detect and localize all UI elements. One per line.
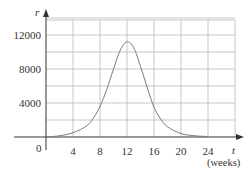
grid-lines: [46, 18, 235, 137]
x-tick-label: 8: [97, 145, 103, 157]
y-tick-label: 12000: [14, 29, 42, 41]
x-axis-arrow-icon: [236, 134, 244, 140]
tick-labels: 48121620244000800012000: [14, 29, 215, 157]
x-tick-label: 16: [149, 145, 161, 157]
x-axis-unit: (weeks): [207, 157, 241, 169]
x-axis-label: t: [232, 144, 236, 156]
y-axis-arrow-icon: [43, 9, 49, 17]
x-tick-label: 20: [176, 145, 188, 157]
x-tick-label: 24: [203, 145, 215, 157]
y-tick-label: 4000: [19, 97, 42, 109]
chart: 48121620244000800012000 r t (weeks) 0: [0, 0, 252, 172]
x-tick-label: 4: [70, 145, 76, 157]
axes: [14, 9, 244, 150]
y-tick-label: 8000: [19, 63, 42, 75]
y-axis-label: r: [35, 6, 40, 18]
origin-label: 0: [36, 142, 42, 154]
x-tick-label: 12: [122, 145, 133, 157]
